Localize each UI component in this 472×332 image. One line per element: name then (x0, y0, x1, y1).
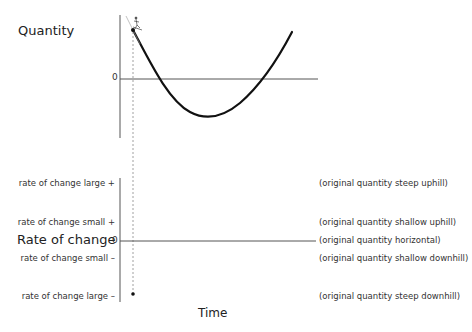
diagram-canvas (0, 0, 472, 332)
quantity-curve (133, 30, 292, 117)
right-label-horizontal: (original quantity horizontal) (319, 235, 441, 245)
quantity-label: Quantity (18, 23, 74, 38)
skier-icon (133, 17, 142, 30)
right-label-shallow-uphill: (original quantity shallow uphill) (319, 217, 456, 227)
curve-start-point (131, 28, 135, 32)
rate-zero-label: 0 (112, 235, 118, 245)
right-label-steep-uphill: (original quantity steep uphill) (319, 178, 448, 188)
rate-point (131, 292, 135, 296)
left-label-large-positive: rate of change large + (19, 178, 115, 188)
time-axis-label: Time (198, 306, 227, 320)
left-label-small-positive: rate of change small + (18, 217, 115, 227)
rate-of-change-label: Rate of change (17, 232, 115, 247)
right-label-steep-downhill: (original quantity steep downhill) (319, 291, 460, 301)
left-label-large-negative: rate of change large – (22, 291, 115, 301)
left-label-small-negative: rate of change small – (21, 253, 115, 263)
right-label-shallow-downhill: (original quantity shallow downhill) (319, 253, 468, 263)
quantity-zero-label: 0 (112, 72, 118, 82)
